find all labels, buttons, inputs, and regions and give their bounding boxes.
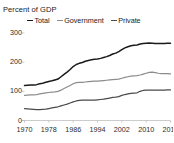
series-line-government [25, 72, 171, 95]
chart-plot-area [0, 0, 173, 143]
y-axis-tick-label: 200 [0, 58, 22, 66]
x-axis-tick-label: 2018 [158, 126, 174, 134]
y-axis-tick-label: 100 [0, 87, 22, 95]
y-axis-tick-label: 0 [0, 117, 22, 125]
x-axis-tick-label: 1986 [60, 126, 86, 134]
chart-container: Percent of GDP Total Government Private … [0, 0, 173, 143]
x-axis-tick-label: 1970 [12, 126, 38, 134]
chart-series-lines [25, 43, 171, 110]
x-axis-tick-label: 2002 [109, 126, 135, 134]
x-axis-tick-label: 1978 [36, 126, 62, 134]
series-line-total [25, 43, 171, 86]
x-axis-tick-label: 1994 [85, 126, 111, 134]
y-axis-tick-label: 300 [0, 29, 22, 37]
x-axis-tick-label: 2010 [133, 126, 159, 134]
